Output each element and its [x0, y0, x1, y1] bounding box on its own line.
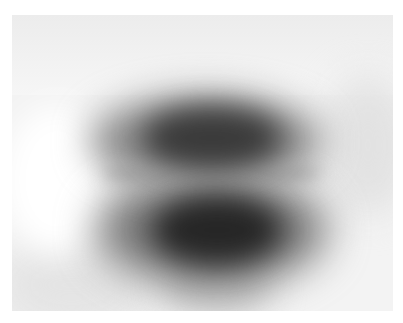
photo-frame	[12, 15, 393, 311]
upper-lobe-core	[142, 107, 282, 169]
background-haze-right	[323, 75, 393, 215]
background-haze-top	[12, 15, 393, 95]
lower-lobe-core	[152, 195, 282, 265]
